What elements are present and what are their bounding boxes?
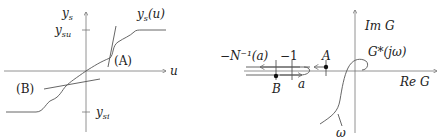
nyquist-curve [320, 59, 368, 124]
right-panel: Im G Re G G*(jω) ω −N⁻¹(a) −1 A B a [220, 10, 437, 139]
tangent-b-label: (B) [16, 82, 34, 96]
nyquist-curve-label: G*(jω) [368, 45, 407, 59]
ys-axis-label: ys [61, 6, 73, 22]
ysu-label: ysu [54, 23, 71, 39]
point-b-label: B [271, 82, 281, 96]
u-axis-label: u [170, 64, 178, 78]
point-a-label: A [321, 49, 331, 63]
omega-pointer [338, 114, 342, 126]
left-panel: ys u ys(u) ysu ysi (A) (B) [4, 6, 178, 132]
point-a [324, 65, 328, 69]
tangent-a-label: (A) [114, 54, 132, 68]
real-axis-label: Re G [399, 75, 430, 89]
imag-axis-label: Im G [364, 19, 395, 33]
diagram-canvas: ys u ys(u) ysu ysi (A) (B) Im G Re G G*(… [0, 0, 442, 139]
point-b [274, 74, 278, 78]
omega-label: ω [336, 126, 346, 139]
ysi-label: ysi [95, 105, 110, 121]
curve-label: ys(u) [136, 7, 165, 23]
neg-inverse-label: −N⁻¹(a) [220, 49, 269, 63]
minus-one-label: −1 [280, 49, 298, 63]
a-arrow-label: a [298, 77, 305, 91]
